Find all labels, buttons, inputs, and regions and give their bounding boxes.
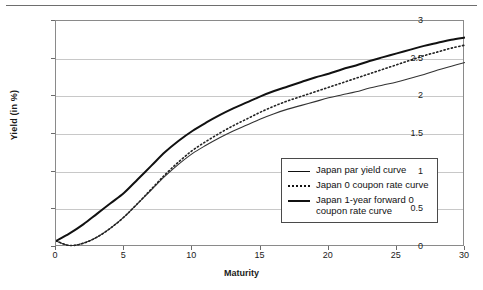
- legend-item-zero-coupon: Japan 0 coupon rate curve: [288, 179, 431, 191]
- legend-swatch-solid-thin-icon: [288, 167, 310, 176]
- top-divider-rule: [6, 5, 477, 6]
- x-tick-label: 10: [171, 251, 211, 260]
- legend-swatch-solid-thick-icon: [288, 197, 310, 206]
- x-tick-label: 15: [240, 251, 280, 260]
- y-tick-mark: [51, 20, 55, 21]
- y-tick-mark: [51, 133, 55, 134]
- y-axis: Yield (in %): [0, 0, 55, 290]
- y-tick-mark: [51, 58, 55, 59]
- x-axis-title: Maturity: [0, 268, 483, 278]
- y-tick-label: 1.5: [383, 129, 423, 138]
- y-tick-mark: [51, 208, 55, 209]
- y-tick-label: 2.5: [383, 54, 423, 63]
- y-tick-label: 2: [383, 91, 423, 100]
- x-tick-label: 0: [35, 251, 75, 260]
- x-tick-mark: [123, 246, 124, 250]
- y-axis-title: Yield (in %): [9, 55, 19, 175]
- y-tick-label: 3: [383, 16, 423, 25]
- x-tick-label: 5: [103, 251, 143, 260]
- x-tick-mark: [464, 246, 465, 250]
- y-tick-mark: [51, 171, 55, 172]
- x-tick-mark: [396, 246, 397, 250]
- figure: Yield (in %) Maturity Japan par yield cu…: [0, 0, 483, 290]
- legend-label: Japan 0 coupon rate curve: [316, 179, 429, 190]
- x-tick-mark: [191, 246, 192, 250]
- y-tick-label: 0: [383, 242, 423, 251]
- x-tick-label: 30: [444, 251, 483, 260]
- x-tick-label: 20: [308, 251, 348, 260]
- x-tick-mark: [328, 246, 329, 250]
- y-tick-label: 0.5: [383, 204, 423, 213]
- x-tick-mark: [260, 246, 261, 250]
- y-tick-label: 1: [383, 167, 423, 176]
- y-tick-mark: [51, 95, 55, 96]
- x-tick-label: 25: [376, 251, 416, 260]
- legend-swatch-dotted-icon: [288, 182, 310, 191]
- x-tick-mark: [55, 246, 56, 250]
